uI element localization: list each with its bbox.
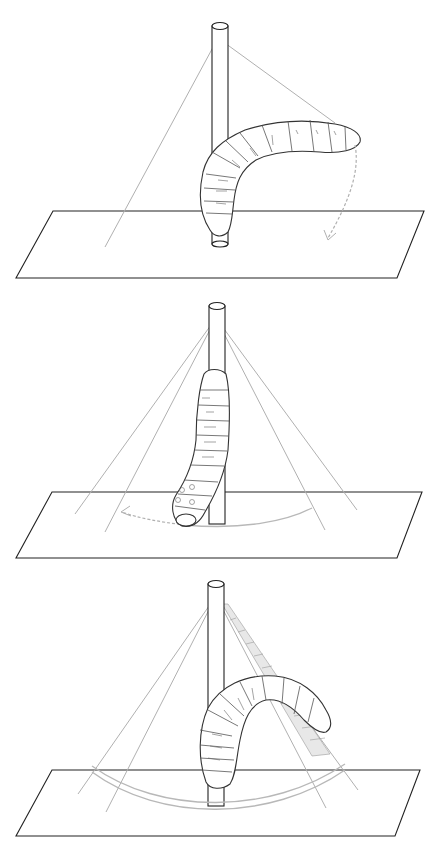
panel-3 — [0, 570, 440, 854]
panel-1 — [0, 0, 440, 285]
motion-arrow — [328, 145, 356, 238]
panel-2-drawing — [0, 290, 440, 570]
figure — [0, 0, 440, 854]
panel-1-drawing — [0, 0, 440, 285]
panel-3-drawing — [0, 570, 440, 854]
panel-2 — [0, 290, 440, 570]
